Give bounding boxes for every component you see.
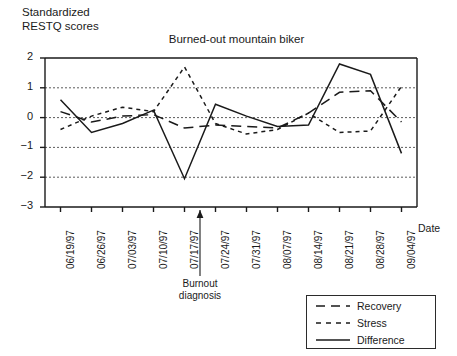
x-tick-label: 07/10/97 xyxy=(158,230,169,269)
legend: Recovery Stress Difference xyxy=(306,295,436,349)
y-tick-label: −2 xyxy=(11,169,33,181)
x-tick-label: 06/26/97 xyxy=(96,230,107,269)
legend-swatch-difference xyxy=(315,335,351,345)
y-tick-label: −3 xyxy=(11,199,33,211)
x-tick-label: 06/19/97 xyxy=(65,230,76,269)
y-tick-label: −1 xyxy=(11,139,33,151)
x-tick-label: 07/31/97 xyxy=(251,230,262,269)
legend-item-recovery: Recovery xyxy=(315,298,401,314)
chart-figure: Standardized RESTQ scores Burned-out mou… xyxy=(0,0,457,356)
x-tick-label: 07/03/97 xyxy=(127,230,138,269)
legend-label-stress: Stress xyxy=(357,317,387,329)
x-tick-label: 08/07/97 xyxy=(282,230,293,269)
legend-item-difference: Difference xyxy=(315,332,405,348)
burnout-diagnosis-annotation: Burnout diagnosis xyxy=(155,278,245,301)
y-tick-label: 1 xyxy=(11,80,33,92)
series-line-stress xyxy=(61,67,402,134)
annotation-arrow-head xyxy=(197,210,204,218)
y-tick-label: 0 xyxy=(11,110,33,122)
series-line-difference xyxy=(61,64,402,179)
legend-label-difference: Difference xyxy=(357,334,405,346)
x-tick-label: 09/04/97 xyxy=(406,230,417,269)
x-tick-label: 08/28/97 xyxy=(375,230,386,269)
x-tick-label: 08/21/97 xyxy=(344,230,355,269)
x-tick-label: 08/14/97 xyxy=(313,230,324,269)
legend-swatch-stress xyxy=(315,318,351,328)
x-tick-label: 07/24/97 xyxy=(220,230,231,269)
y-tick-label: 2 xyxy=(11,50,33,62)
legend-label-recovery: Recovery xyxy=(357,300,401,312)
legend-swatch-recovery xyxy=(315,301,351,311)
legend-item-stress: Stress xyxy=(315,315,387,331)
x-tick-label: 07/17/97 xyxy=(189,230,200,269)
